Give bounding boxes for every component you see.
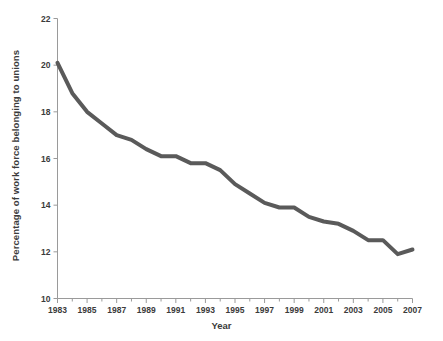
x-tick-label: 1991 <box>166 305 185 315</box>
y-tick-label: 12 <box>41 247 51 257</box>
data-series-line <box>58 63 413 254</box>
x-tick-label: 2005 <box>373 305 392 315</box>
y-tick-label: 10 <box>41 294 51 304</box>
x-tick-label: 1987 <box>107 305 126 315</box>
x-tick-label: 1983 <box>48 305 67 315</box>
x-tick-label: 1993 <box>196 305 215 315</box>
x-tick-label: 1985 <box>78 305 97 315</box>
x-tick-label: 1989 <box>137 305 156 315</box>
y-tick-label: 20 <box>41 60 51 70</box>
plot-area: 10121416182022 1983198519871989199119931… <box>0 0 443 341</box>
x-tick-label: 1995 <box>226 305 245 315</box>
x-tick-label: 2007 <box>403 305 422 315</box>
x-tick-label: 1999 <box>285 305 304 315</box>
x-tick-label: 2001 <box>314 305 333 315</box>
x-tick-label: 1997 <box>255 305 274 315</box>
x-axis-label: Year <box>0 320 443 331</box>
y-tick-label: 22 <box>41 14 51 24</box>
y-tick-label: 18 <box>41 107 51 117</box>
x-tick-label: 2003 <box>344 305 363 315</box>
union-membership-line-chart: Percentage of work force belonging to un… <box>0 0 443 341</box>
x-axis-ticks: 1983198519871989199119931995199719992001… <box>48 299 422 315</box>
y-axis-ticks: 10121416182022 <box>41 14 57 304</box>
y-tick-label: 14 <box>41 200 51 210</box>
y-tick-label: 16 <box>41 154 51 164</box>
